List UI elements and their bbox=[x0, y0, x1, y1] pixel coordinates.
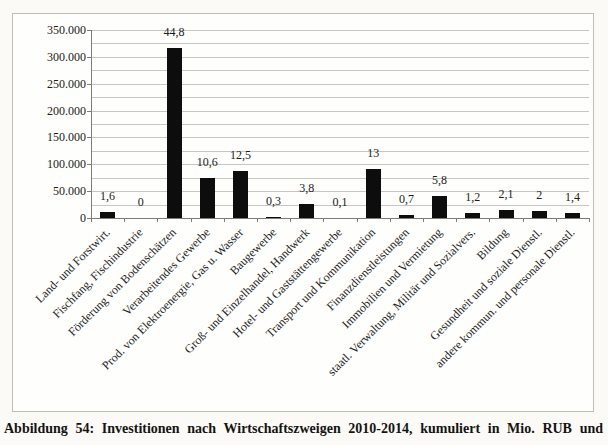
bar-value-label: 0,1 bbox=[317, 196, 363, 209]
book-page: 050.000100.000150.000200.000250.000300.0… bbox=[0, 0, 608, 445]
y-axis-tick-label: 0 bbox=[17, 211, 86, 225]
bar bbox=[266, 217, 281, 218]
bar bbox=[499, 210, 514, 218]
gridline bbox=[91, 43, 589, 44]
bar bbox=[399, 215, 414, 218]
bar bbox=[366, 169, 381, 218]
bar-value-label: 3,8 bbox=[284, 182, 330, 195]
x-axis-line bbox=[91, 218, 590, 219]
bar-value-label: 5,8 bbox=[417, 174, 463, 187]
bar-value-label: 12,5 bbox=[217, 149, 263, 162]
bar-value-label: 0,3 bbox=[251, 195, 297, 208]
bar bbox=[299, 204, 314, 219]
y-axis-tick-label: 150.000 bbox=[17, 130, 86, 144]
figure-caption: Abbildung 54: Investitionen nach Wirtsch… bbox=[4, 419, 603, 438]
y-axis-tick-label: 200.000 bbox=[17, 104, 86, 118]
bar-value-label: 0,7 bbox=[383, 193, 429, 206]
bar bbox=[100, 212, 115, 218]
bar bbox=[565, 213, 580, 218]
bar bbox=[532, 211, 547, 219]
bar bbox=[432, 196, 447, 218]
y-axis-tick-label: 300.000 bbox=[17, 50, 86, 64]
bar-value-label: 0 bbox=[118, 196, 164, 209]
y-axis-tick-label: 100.000 bbox=[17, 157, 86, 171]
bar bbox=[200, 178, 215, 218]
bar-value-label: 13 bbox=[350, 147, 396, 160]
bar bbox=[167, 48, 182, 218]
bar-value-label: 1,4 bbox=[549, 191, 594, 204]
y-axis-tick-label: 50.000 bbox=[17, 184, 86, 198]
bar bbox=[465, 213, 480, 218]
bar-value-label: 44,8 bbox=[151, 26, 197, 39]
bar bbox=[233, 171, 248, 218]
y-axis-tick-label: 250.000 bbox=[17, 77, 86, 91]
y-axis-tick-label: 350.000 bbox=[17, 23, 86, 37]
chart-area: 050.000100.000150.000200.000250.000300.0… bbox=[12, 13, 594, 412]
